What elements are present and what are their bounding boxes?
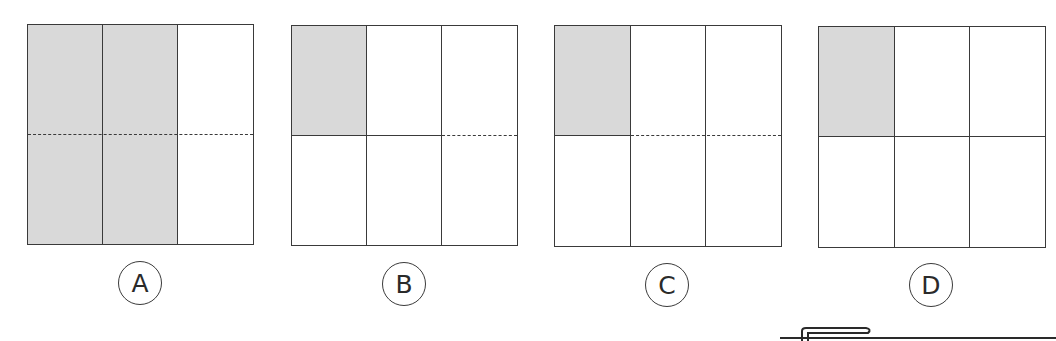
option-b-grid: [291, 25, 518, 246]
shaded-cell: [555, 26, 631, 135]
shaded-cell: [292, 26, 367, 135]
option-c-grid: [554, 25, 782, 247]
column-divider: [705, 26, 706, 246]
option-b-label[interactable]: B: [382, 262, 426, 306]
option-c-label[interactable]: C: [645, 263, 689, 307]
solid-row-divider: [292, 135, 442, 136]
solid-row-divider: [819, 136, 1045, 137]
dashed-row-divider: [631, 135, 781, 136]
option-a-label[interactable]: A: [118, 261, 162, 305]
column-divider: [894, 27, 895, 247]
option-d-grid: [818, 26, 1046, 248]
column-divider: [969, 27, 970, 247]
solid-row-divider: [555, 135, 631, 136]
dashed-row-divider: [28, 134, 253, 135]
paper-clip-icon: [780, 325, 1056, 341]
column-divider: [630, 26, 631, 246]
dashed-row-divider: [442, 135, 517, 136]
option-d-label[interactable]: D: [909, 263, 953, 307]
option-a-grid: [27, 24, 254, 245]
shaded-cell: [819, 27, 895, 136]
